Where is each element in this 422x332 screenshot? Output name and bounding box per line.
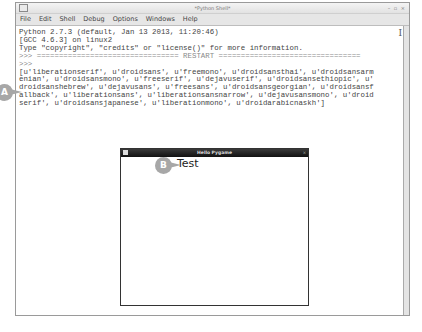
text-cursor-icon: I [398,28,402,38]
pygame-window: Hello Pygame × Test [120,148,309,306]
menu-help[interactable]: Help [183,14,198,25]
callout-b-arrow-icon [169,162,181,168]
vertical-scrollbar[interactable] [403,26,409,315]
pygame-title-bar[interactable]: Hello Pygame × [121,149,308,157]
callout-a-arrow-icon [10,89,22,95]
menu-shell[interactable]: Shell [59,14,75,25]
menu-windows[interactable]: Windows [146,14,175,25]
menu-options[interactable]: Options [113,14,138,25]
menu-edit[interactable]: Edit [39,14,52,25]
title-bar[interactable]: *Python Shell* – ▫ × [16,3,409,14]
window-controls[interactable]: – ▫ × [388,3,406,13]
shell-text: Python 2.7.3 (default, Jan 13 2013, 11:2… [19,29,374,108]
menu-debug[interactable]: Debug [83,14,104,25]
shell-line: >>> ================================ RES… [19,53,374,61]
pygame-window-title: Hello Pygame [121,149,308,157]
window-title: *Python Shell* [16,3,409,13]
menu-bar: File Edit Shell Debug Options Windows He… [16,14,409,26]
shell-line: serif', u'droidsansjapanese', u'liberati… [19,100,374,108]
pygame-close-icon[interactable]: × [303,149,306,157]
menu-file[interactable]: File [20,14,31,25]
